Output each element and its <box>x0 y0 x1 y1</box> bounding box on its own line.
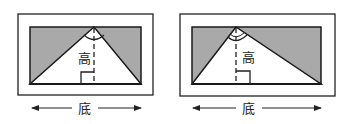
triangle-area-diagram: 高 底 高 底 <box>0 0 346 124</box>
base-label: 底 <box>78 101 91 116</box>
height-label: 高 <box>78 51 91 66</box>
base-label: 底 <box>242 101 255 116</box>
figure-right: 高 底 <box>180 14 335 116</box>
figure-left: 高 底 <box>18 14 153 116</box>
height-label: 高 <box>242 50 255 65</box>
